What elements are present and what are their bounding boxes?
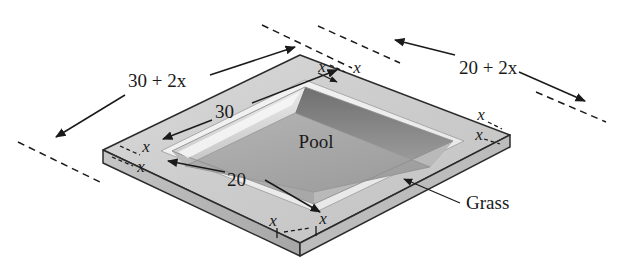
ext-line-right <box>536 92 606 122</box>
label-x-top-right: x <box>352 58 361 77</box>
dim-arrow-20-right <box>519 72 585 101</box>
dim-arrow-20-left <box>395 40 455 55</box>
label-x-top-left: x <box>317 57 326 76</box>
label-pool: Pool <box>299 131 334 152</box>
label-outer-long: 30 + 2x <box>128 70 187 91</box>
label-x-bottom-right: x <box>318 209 327 228</box>
ext-line-left <box>18 142 100 182</box>
label-outer-short: 20 + 2x <box>459 57 518 78</box>
figure-canvas: 30 + 2x 20 + 2x 30 20 x x <box>0 0 628 265</box>
label-x-right-upper: x <box>476 105 485 124</box>
label-grass: Grass <box>466 192 509 213</box>
label-x-right-lower: x <box>474 125 483 144</box>
label-x-left-lower: x <box>136 157 145 176</box>
label-pool-short: 20 <box>227 169 246 190</box>
label-x-left-upper: x <box>141 137 150 156</box>
label-x-bottom-left: x <box>268 211 277 230</box>
dim-arrow-30-lower <box>56 95 125 137</box>
label-pool-long: 30 <box>215 101 234 122</box>
pool-grass-diagram: 30 + 2x 20 + 2x 30 20 x x <box>0 0 628 265</box>
